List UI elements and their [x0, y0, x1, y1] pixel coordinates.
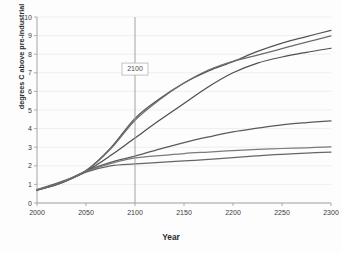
svg-text:0: 0 [28, 200, 32, 207]
svg-text:1: 1 [28, 181, 32, 188]
y-axis-title: degrees C above pre-industrial [17, 0, 26, 122]
x-axis-ticks: 2000205021002150220022502300 [29, 203, 339, 216]
svg-text:2100: 2100 [127, 209, 143, 216]
svg-text:9: 9 [28, 32, 32, 39]
x-axis-title: Year [0, 232, 342, 242]
gridlines [37, 17, 331, 203]
svg-text:2050: 2050 [78, 209, 94, 216]
svg-text:5: 5 [28, 107, 32, 114]
line-chart-plot: 012345678910 200020502100215022002250230… [0, 0, 342, 253]
svg-text:2000: 2000 [29, 209, 45, 216]
chart-container: 012345678910 200020502100215022002250230… [0, 0, 342, 253]
svg-text:2: 2 [28, 162, 32, 169]
svg-text:7: 7 [28, 69, 32, 76]
svg-text:6: 6 [28, 88, 32, 95]
svg-text:3: 3 [28, 144, 32, 151]
svg-text:2300: 2300 [323, 209, 339, 216]
svg-text:4: 4 [28, 125, 32, 132]
y-axis-ticks: 012345678910 [24, 14, 37, 207]
svg-text:8: 8 [28, 51, 32, 58]
svg-text:2200: 2200 [225, 209, 241, 216]
svg-text:2150: 2150 [176, 209, 192, 216]
svg-text:2250: 2250 [274, 209, 290, 216]
svg-text:2100: 2100 [127, 65, 143, 72]
